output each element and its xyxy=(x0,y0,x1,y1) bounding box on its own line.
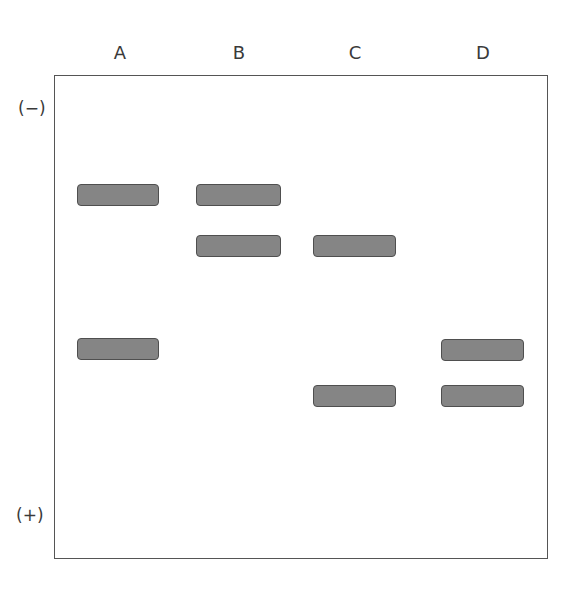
band-lane-c xyxy=(313,235,396,257)
lane-label-b: B xyxy=(219,42,259,63)
lane-label-d: D xyxy=(463,42,503,63)
negative-pole-label: (−) xyxy=(18,98,46,118)
band-lane-b xyxy=(196,184,281,206)
band-lane-b xyxy=(196,235,281,257)
band-lane-d xyxy=(441,385,524,407)
gel-frame xyxy=(54,75,548,559)
band-lane-d xyxy=(441,339,524,361)
positive-pole-label: (+) xyxy=(16,505,44,525)
lane-label-c: C xyxy=(335,42,375,63)
band-lane-a xyxy=(77,184,159,206)
band-lane-a xyxy=(77,338,159,360)
band-lane-c xyxy=(313,385,396,407)
lane-label-a: A xyxy=(100,42,140,63)
